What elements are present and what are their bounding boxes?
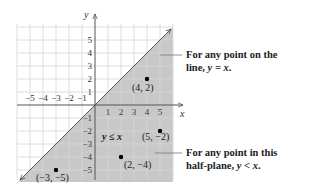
annotation-boundary-line1: For any point on the — [186, 48, 277, 61]
point-label-neg3-neg5: (−3, −5) — [36, 172, 69, 184]
svg-text:−4: −4 — [38, 93, 48, 103]
svg-text:−3: −3 — [51, 93, 61, 103]
point-label-2-neg4: (2, −4) — [124, 159, 151, 171]
svg-text:1: 1 — [106, 107, 111, 117]
point-label-5-neg2: (5, −2) — [142, 131, 169, 143]
svg-text:5: 5 — [88, 35, 93, 45]
point-label-4-2: (4, 2) — [132, 82, 154, 94]
svg-text:−2: −2 — [82, 126, 92, 136]
svg-text:4: 4 — [145, 107, 150, 117]
annotation-half-plane-line1: For any point in this — [186, 146, 277, 159]
svg-text:−1: −1 — [77, 93, 87, 103]
point-4-2 — [145, 77, 149, 81]
svg-text:−5: −5 — [25, 93, 35, 103]
point-2-neg4 — [119, 155, 123, 159]
svg-text:5: 5 — [158, 107, 163, 117]
y-axis-label: y — [83, 9, 89, 20]
x-axis-label: x — [179, 108, 185, 119]
svg-text:1: 1 — [88, 87, 93, 97]
annotation-boundary: For any point on the line, y = x. — [186, 48, 277, 74]
svg-text:2: 2 — [119, 107, 124, 117]
svg-text:−2: −2 — [64, 93, 74, 103]
svg-text:−1: −1 — [82, 113, 92, 123]
svg-text:4: 4 — [88, 48, 93, 58]
svg-text:3: 3 — [88, 61, 93, 71]
svg-text:−3: −3 — [82, 139, 92, 149]
svg-text:−4: −4 — [82, 152, 92, 162]
svg-text:2: 2 — [88, 74, 93, 84]
annotation-half-plane: For any point in this half-plane, y < x. — [186, 146, 277, 172]
inequality-label: y ≤ x — [101, 131, 122, 142]
svg-text:3: 3 — [132, 107, 137, 117]
svg-text:−5: −5 — [82, 165, 92, 175]
